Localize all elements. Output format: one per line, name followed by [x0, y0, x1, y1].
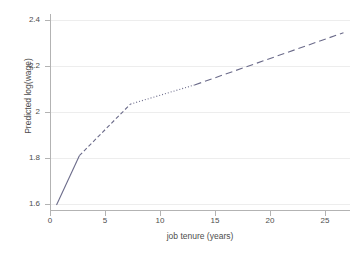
chart-figure: 2.4 2.2 2 1.8 1.6 0 5 10 15 20 25 Predic… [0, 0, 360, 263]
segment-3-dotted [130, 85, 194, 104]
segment-1-solid [57, 156, 80, 205]
plot-curve [0, 0, 360, 263]
segment-4-longdash [195, 33, 344, 85]
segment-2-shortdash [79, 104, 130, 156]
